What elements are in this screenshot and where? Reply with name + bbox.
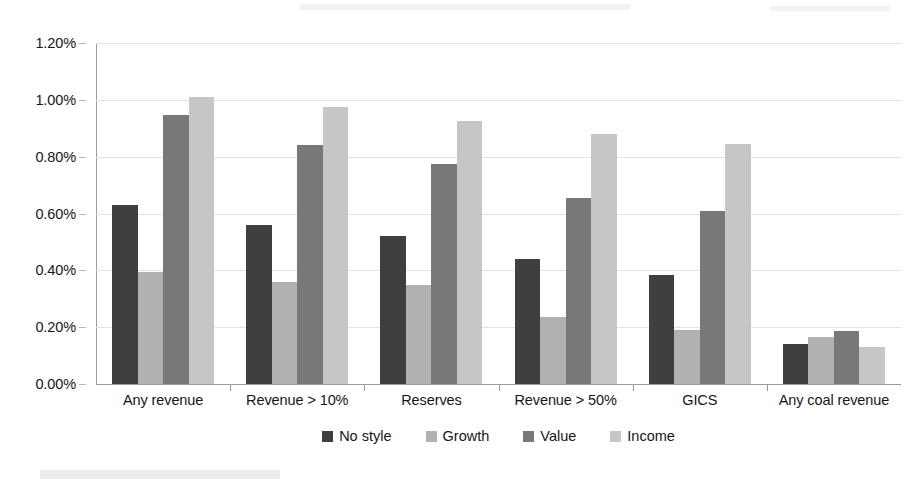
y-axis-tick-mark bbox=[79, 100, 86, 101]
bar-cluster bbox=[112, 43, 214, 384]
y-axis-tick-mark bbox=[79, 43, 86, 44]
bar[interactable] bbox=[515, 259, 541, 384]
bar[interactable] bbox=[272, 282, 298, 384]
bar[interactable] bbox=[540, 317, 566, 384]
bar[interactable] bbox=[591, 134, 617, 384]
bar-group bbox=[230, 43, 364, 384]
bar[interactable] bbox=[406, 285, 432, 384]
x-axis-group-separator bbox=[364, 384, 365, 391]
bar[interactable] bbox=[674, 330, 700, 384]
bar[interactable] bbox=[566, 198, 592, 384]
legend-swatch-icon bbox=[523, 431, 534, 442]
y-axis-tick-mark bbox=[79, 214, 86, 215]
x-axis-group-separator bbox=[499, 384, 500, 391]
y-axis-tick-label: 1.00% bbox=[35, 92, 76, 108]
scan-artifact bbox=[770, 6, 890, 11]
x-axis-category-label: Revenue > 50% bbox=[499, 392, 633, 408]
y-axis-tick-label: 1.20% bbox=[35, 35, 76, 51]
y-axis-tick-mark bbox=[79, 270, 86, 271]
x-axis-category-label: Revenue > 10% bbox=[230, 392, 364, 408]
legend-label: Growth bbox=[443, 428, 490, 444]
legend-label: Value bbox=[540, 428, 576, 444]
bar-groups bbox=[96, 43, 901, 384]
bar-cluster bbox=[783, 43, 885, 384]
bar-cluster bbox=[649, 43, 751, 384]
bar[interactable] bbox=[163, 115, 189, 384]
x-axis-group-separator bbox=[767, 384, 768, 391]
bar-cluster bbox=[246, 43, 348, 384]
bar-group bbox=[633, 43, 767, 384]
x-axis-category-label: GICS bbox=[633, 392, 767, 408]
y-axis-tick-label: 0.40% bbox=[35, 262, 76, 278]
y-axis-tick-label: 0.20% bbox=[35, 319, 76, 335]
bar[interactable] bbox=[380, 236, 406, 384]
bar[interactable] bbox=[431, 164, 457, 384]
x-axis-category-label: Any coal revenue bbox=[767, 392, 901, 408]
bar-cluster bbox=[380, 43, 482, 384]
legend-item[interactable]: No style bbox=[322, 428, 391, 444]
bar[interactable] bbox=[297, 145, 323, 384]
bar[interactable] bbox=[783, 344, 809, 384]
legend-item[interactable]: Growth bbox=[426, 428, 490, 444]
y-axis-tick-label: 0.80% bbox=[35, 149, 76, 165]
bar[interactable] bbox=[808, 337, 834, 384]
legend-swatch-icon bbox=[322, 431, 333, 442]
bar-chart-figure: 1.20%1.00%0.80%0.60%0.40%0.20%0.00% Any … bbox=[0, 0, 921, 483]
bar-group bbox=[767, 43, 901, 384]
bar[interactable] bbox=[457, 121, 483, 384]
x-axis-category-label: Any revenue bbox=[96, 392, 230, 408]
bar-group bbox=[499, 43, 633, 384]
bar[interactable] bbox=[138, 272, 164, 384]
legend-label: No style bbox=[339, 428, 391, 444]
x-axis-category-label: Reserves bbox=[364, 392, 498, 408]
bar[interactable] bbox=[700, 211, 726, 384]
bar[interactable] bbox=[323, 107, 349, 384]
bar[interactable] bbox=[246, 225, 272, 384]
scan-artifact bbox=[300, 4, 630, 10]
x-axis-group-separator bbox=[230, 384, 231, 391]
y-axis-tick-mark bbox=[79, 157, 86, 158]
bar-group bbox=[96, 43, 230, 384]
y-axis: 1.20%1.00%0.80%0.60%0.40%0.20%0.00% bbox=[0, 43, 86, 384]
plot-area bbox=[96, 43, 901, 384]
bar[interactable] bbox=[834, 331, 860, 384]
y-axis-tick-mark bbox=[79, 384, 86, 385]
bar[interactable] bbox=[112, 205, 138, 384]
bar[interactable] bbox=[725, 144, 751, 384]
y-axis-tick-label: 0.60% bbox=[35, 206, 76, 222]
chart-legend: No styleGrowthValueIncome bbox=[96, 428, 901, 444]
legend-swatch-icon bbox=[610, 431, 621, 442]
bar[interactable] bbox=[859, 347, 885, 384]
y-axis-tick-mark bbox=[79, 327, 86, 328]
legend-label: Income bbox=[627, 428, 675, 444]
bar-cluster bbox=[515, 43, 617, 384]
legend-item[interactable]: Income bbox=[610, 428, 675, 444]
bar[interactable] bbox=[189, 97, 215, 384]
x-axis-group-separator bbox=[633, 384, 634, 391]
x-axis: Any revenueRevenue > 10%ReservesRevenue … bbox=[96, 392, 901, 408]
bar[interactable] bbox=[649, 275, 675, 384]
bar-group bbox=[364, 43, 498, 384]
legend-swatch-icon bbox=[426, 431, 437, 442]
scan-artifact bbox=[40, 470, 280, 479]
y-axis-tick-label: 0.00% bbox=[35, 376, 76, 392]
legend-item[interactable]: Value bbox=[523, 428, 576, 444]
